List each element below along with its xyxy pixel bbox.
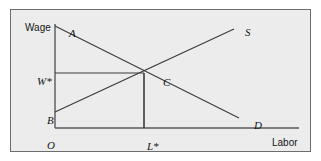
equilibrium-wage-label: W* [37,76,52,87]
y-axis-label: Wage [25,23,51,33]
figure-screenshot: Wage Labor A B C S D O W* L* [0,0,321,161]
supply-curve-label: S [245,27,251,38]
figure-frame: Wage Labor A B C S D O W* L* [10,9,311,152]
equilibrium-labor-label: L* [147,141,159,152]
demand-intercept-label: A [69,28,76,39]
supply-intercept-label: B [47,115,54,126]
demand-curve-label: D [254,120,262,131]
x-axis-label: Labor [272,138,298,148]
supply-demand-plot [11,10,312,153]
equilibrium-point-label: C [163,77,170,88]
origin-label: O [47,140,55,151]
